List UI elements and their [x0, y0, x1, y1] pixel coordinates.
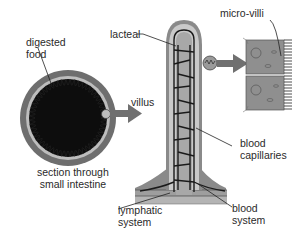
epithelial-cells: [243, 38, 292, 112]
label-digested-food: digested food: [26, 36, 66, 60]
intestine-cross-section: [20, 70, 116, 166]
label-lymphatic-system: lymphatic system: [118, 204, 162, 228]
label-section: section through small intestine: [37, 166, 109, 190]
label-blood-system: blood system: [232, 202, 265, 226]
label-micro-villi: micro-villi: [220, 7, 264, 19]
label-villus: villus: [131, 96, 154, 108]
label-lacteal: lacteal: [110, 28, 140, 40]
villus: [135, 20, 227, 204]
small-intestine-diagram: digested food lacteal villus micro-villi…: [0, 0, 302, 235]
microvilli-arrow: [217, 54, 248, 73]
label-blood-capillaries: blood capillaries: [240, 137, 287, 161]
